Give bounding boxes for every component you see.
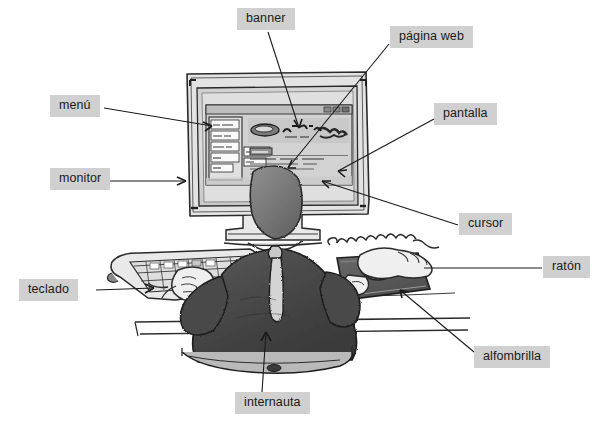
label-raton[interactable]: ratón	[543, 256, 590, 278]
screen-menu	[209, 117, 242, 180]
label-banner[interactable]: banner	[237, 8, 295, 30]
label-menu[interactable]: menú	[50, 95, 100, 117]
screen-banner	[248, 118, 349, 143]
label-alfombrilla[interactable]: alfombrilla	[474, 346, 550, 368]
label-cursor[interactable]: cursor	[459, 213, 512, 235]
label-internauta[interactable]: internauta	[235, 392, 310, 414]
mouse-cable-group	[328, 234, 439, 248]
illustration-canvas: banner página web menú pantalla monitor …	[0, 0, 604, 422]
label-teclado[interactable]: teclado	[19, 279, 78, 301]
label-pantalla[interactable]: pantalla	[434, 103, 497, 125]
leader-alfombrilla	[400, 290, 474, 352]
label-pagina-web[interactable]: página web	[390, 26, 473, 48]
label-monitor[interactable]: monitor	[50, 168, 110, 190]
